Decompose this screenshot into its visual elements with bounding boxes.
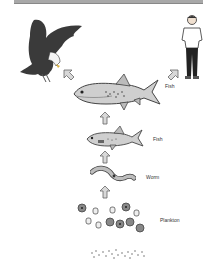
worm-icon [90,164,136,186]
label-small-fish: Fish [153,136,162,142]
small-fish-icon [86,125,144,151]
label-large-fish: Fish [165,83,174,89]
particles-icon [90,248,146,260]
label-worm: Worm [146,174,159,180]
arrow-to-human [166,68,180,82]
large-fish-icon [72,72,162,112]
human-icon [180,14,204,80]
arrow-up-2 [99,150,111,164]
arrow-up-1 [99,111,111,125]
label-plankton: Plankton [160,217,179,223]
top-rule [14,0,203,4]
arrow-up-3 [99,185,111,199]
plankton-icon [74,200,150,236]
